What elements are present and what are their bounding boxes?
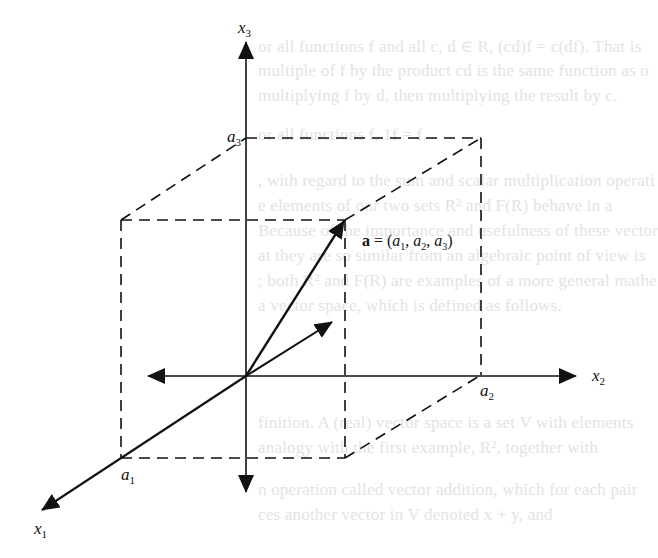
a3-tick-label: a3 [227, 127, 242, 148]
dashed-box [121, 138, 481, 458]
x2-axis-label: x2 [591, 366, 605, 387]
x3-axis-label: x3 [237, 18, 252, 39]
a2-tick-label: a2 [480, 381, 494, 402]
diag-top-left [121, 138, 246, 220]
projection-arrow [246, 322, 332, 376]
vectors [246, 221, 344, 376]
vector-a-label: a = (a1, a2, a3) [362, 232, 453, 252]
diag-top-right [345, 138, 481, 220]
a1-tick-label: a1 [121, 465, 135, 486]
x1-axis [42, 376, 246, 510]
vector-a-arrow [246, 221, 344, 376]
x1-axis-label: x1 [33, 519, 47, 540]
diag-bottom-right [345, 375, 481, 458]
